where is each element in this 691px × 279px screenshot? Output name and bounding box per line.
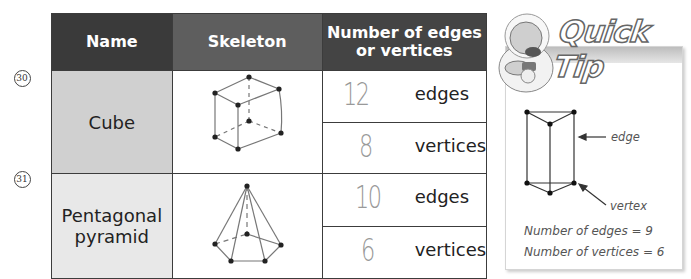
header-skeleton: Skeleton [172, 14, 322, 71]
edges-note: Number of edges = 9 [524, 224, 653, 238]
vertices-answer-cube[interactable]: 8 [359, 127, 372, 165]
edges-answer-cube[interactable]: 12 [343, 75, 369, 113]
skeleton-cell-pyramid [172, 174, 322, 279]
name-cell-pyramid: Pentagonal pyramid [52, 174, 173, 279]
table-row-cube: Cube [52, 71, 487, 123]
name-pyramid-line2: pyramid [52, 226, 172, 247]
edges-answer-pyramid[interactable]: 10 [355, 178, 381, 216]
header-number-line2: or vertices [323, 42, 486, 60]
vertices-answer-pyramid[interactable]: 6 [361, 231, 374, 269]
table-row-pyramid: Pentagonal pyramid [52, 174, 487, 227]
vertices-cell-pyramid: 6 vertices [322, 226, 486, 279]
question-number-31: 31 [12, 168, 32, 188]
edges-label-cube: edges [415, 83, 469, 104]
header-number-line1: Number of edges [323, 24, 486, 42]
edges-cell-pyramid: 10 edges [322, 174, 486, 227]
vertices-label-pyramid: vertices [415, 239, 487, 260]
edges-cell-cube: 12 edges [322, 71, 486, 123]
name-cell-cube: Cube [52, 71, 173, 174]
edge-arrow-icon [579, 134, 606, 140]
header-number: Number of edges or vertices [322, 14, 486, 71]
vertices-note: Number of vertices = 6 [524, 245, 664, 259]
vertex-arrow-icon [579, 184, 606, 205]
header-row: Name Skeleton Number of edges or vertice… [52, 14, 487, 71]
name-cube: Cube [89, 112, 135, 133]
name-pyramid-line1: Pentagonal [52, 205, 172, 226]
question-number-30: 30 [12, 67, 32, 87]
cube-skeleton-icon [173, 71, 322, 169]
pentagonal-pyramid-skeleton-icon [173, 174, 322, 274]
vertex-label: vertex [610, 199, 647, 213]
edge-label: edge [611, 130, 640, 144]
skeleton-cell-cube [172, 71, 322, 174]
quick-tip-title: Quick Tip [552, 14, 691, 84]
vertices-label-cube: vertices [415, 135, 487, 156]
header-name: Name [52, 14, 173, 71]
vertices-cell-cube: 8 vertices [322, 122, 486, 174]
mascot-icon [496, 8, 558, 94]
edges-label-pyramid: edges [415, 186, 469, 207]
solids-table: Name Skeleton Number of edges or vertice… [51, 13, 487, 279]
